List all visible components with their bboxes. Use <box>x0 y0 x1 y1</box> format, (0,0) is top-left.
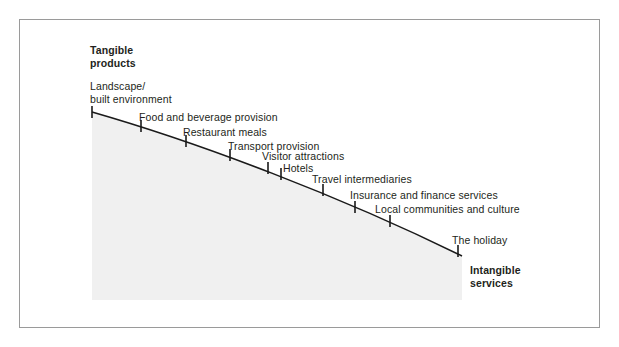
point-label: Restaurant meals <box>183 126 267 139</box>
point-label: Insurance and finance services <box>350 189 498 202</box>
pole-label-tangible: Tangible products <box>90 44 136 70</box>
point-label: Local communities and culture <box>375 203 520 216</box>
point-label: Hotels <box>283 162 313 175</box>
point-label: The holiday <box>452 234 507 247</box>
point-label: Visitor attractions <box>262 150 344 163</box>
point-label: Landscape/ built environment <box>90 80 172 105</box>
point-label: Travel intermediaries <box>312 173 412 186</box>
pole-label-intangible: Intangible services <box>470 264 521 290</box>
point-label: Food and beverage provision <box>139 111 278 124</box>
